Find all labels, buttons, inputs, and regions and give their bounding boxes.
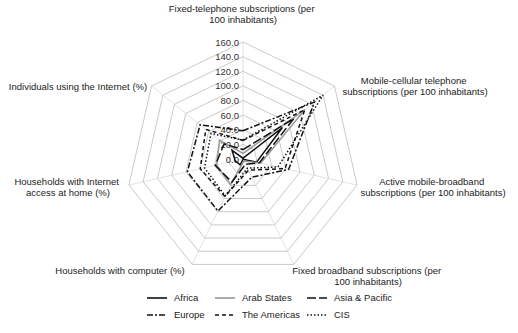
tick-label: 120.0 [215, 66, 239, 77]
legend-item-cis: CIS [307, 309, 350, 320]
axis-label-households-internet: Households with Internet access at home … [14, 176, 121, 198]
tick-label: 80.0 [221, 95, 240, 106]
legend-item-arab-states: Arab States [215, 292, 292, 303]
axis-label-individuals-internet: Individuals using the Internet (%) [9, 81, 147, 92]
legend-item-asia-pacific: Asia & Pacific [307, 292, 392, 303]
tick-label: 100.0 [215, 80, 239, 91]
tick-label: 140.0 [215, 51, 239, 62]
axis-label-active-mobile-broadband: Active mobile-broadband subscriptions (p… [360, 176, 505, 198]
legend-label: Arab States [242, 292, 292, 303]
radar-axis-labels: Fixed-telephone subscriptions (per 100 i… [9, 3, 506, 287]
tick-label: 160.0 [215, 37, 239, 48]
axis-label-mobile-cellular: Mobile-cellular telephone subscriptions … [342, 75, 487, 97]
legend-item-europe: Europe [147, 309, 205, 320]
legend-label: Europe [174, 309, 205, 320]
legend-item-africa: Africa [147, 292, 199, 303]
axis-label-households-computer: Households with computer (%) [55, 265, 184, 276]
legend-item-the-americas: The Americas [215, 309, 300, 320]
legend-label: Asia & Pacific [334, 292, 392, 303]
tick-label: 60.0 [221, 110, 240, 121]
legend-label: CIS [334, 309, 350, 320]
legend-label: The Americas [242, 309, 300, 320]
chart-legend: Africa Arab States Asia & Pacific Europe… [147, 292, 392, 320]
axis-label-fixed-telephone: Fixed-telephone subscriptions (per 100 i… [169, 3, 317, 25]
axis-label-fixed-broadband: Fixed broadband subscriptions (per 100 i… [292, 265, 444, 287]
radar-chart: 0.020.040.060.080.0100.0120.0140.0160.0 … [0, 0, 518, 333]
legend-label: Africa [174, 292, 199, 303]
